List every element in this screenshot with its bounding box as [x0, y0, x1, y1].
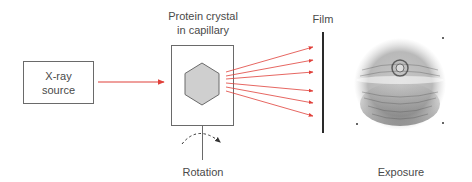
- exposure-label: Exposure: [366, 165, 436, 179]
- exposure-diffraction-pattern: [354, 37, 446, 130]
- crystal-label-line2: in capillary: [152, 23, 254, 37]
- xray-source-label-line2: source: [23, 83, 94, 97]
- crystal-label: Protein crystal in capillary: [152, 9, 254, 37]
- xray-source-label-line1: X-ray: [23, 69, 94, 83]
- rotation-arrow-icon: [182, 133, 220, 144]
- diffracted-rays: [226, 47, 313, 116]
- rotation-label: Rotation: [170, 165, 236, 179]
- crystal-label-line1: Protein crystal: [152, 9, 254, 23]
- film-label: Film: [303, 12, 343, 26]
- xray-source-label: X-ray source: [23, 69, 94, 97]
